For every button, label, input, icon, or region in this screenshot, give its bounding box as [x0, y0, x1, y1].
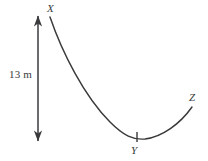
dimension-label: 13 m	[9, 69, 32, 80]
curve-path	[50, 17, 192, 139]
figure-container: X Y Z 13 m	[0, 0, 208, 161]
point-label-z: Z	[189, 92, 195, 103]
point-label-x: X	[47, 3, 54, 14]
point-label-y: Y	[131, 145, 137, 156]
diagram-canvas	[0, 0, 208, 161]
